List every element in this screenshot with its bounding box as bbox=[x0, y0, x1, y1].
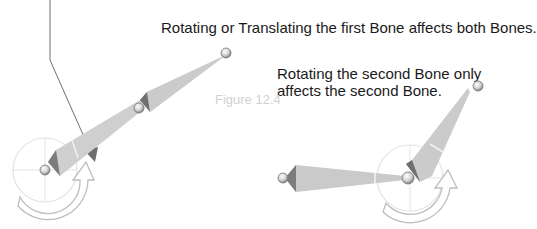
first-bone bbox=[48, 100, 145, 176]
second-bone-right bbox=[406, 88, 470, 182]
joint-root-right-icon bbox=[278, 173, 288, 183]
joint-middle-icon bbox=[134, 103, 144, 113]
joint-root-icon bbox=[40, 165, 50, 175]
second-bone bbox=[140, 55, 226, 112]
joint-tip-right-icon bbox=[473, 81, 483, 91]
joint-middle-right-icon bbox=[402, 172, 414, 184]
first-bone-right bbox=[285, 165, 405, 192]
joint-tip-icon bbox=[221, 48, 231, 58]
